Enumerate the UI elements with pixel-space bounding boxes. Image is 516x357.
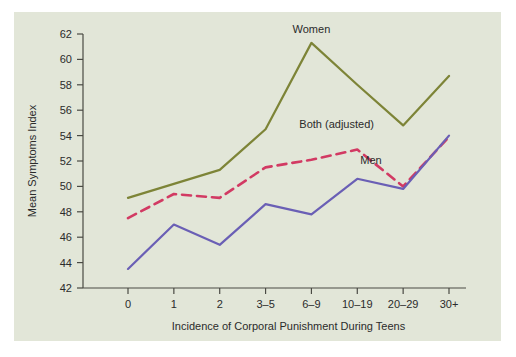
series-line-men [128, 136, 449, 269]
y-tick-label: 50 [60, 180, 72, 192]
series-line-both-adjusted [128, 137, 449, 218]
series-label-both-adjusted: Both (adjusted) [299, 118, 374, 130]
y-tick-label: 62 [60, 28, 72, 40]
series-line-women [128, 43, 449, 198]
y-tick-label: 56 [60, 104, 72, 116]
x-tick-label: 6–9 [302, 298, 320, 310]
series-label-women: Women [293, 23, 331, 35]
axis-tick-labels: 42444648505254565860620123–56–910–1920–2… [60, 28, 459, 310]
y-tick-label: 48 [60, 206, 72, 218]
y-tick-label: 52 [60, 155, 72, 167]
x-tick-label: 3–5 [256, 298, 274, 310]
chart-figure: 42444648505254565860620123–56–910–1920–2… [0, 0, 516, 357]
y-tick-label: 42 [60, 282, 72, 294]
y-tick-label: 54 [60, 130, 72, 142]
axes [77, 34, 466, 294]
series-lines [128, 43, 449, 269]
x-tick-label: 2 [217, 298, 223, 310]
y-tick-label: 58 [60, 79, 72, 91]
y-tick-label: 60 [60, 53, 72, 65]
x-tick-label: 20–29 [388, 298, 419, 310]
x-tick-label: 1 [171, 298, 177, 310]
y-axis-title: Mean Symptoms Index [26, 104, 38, 217]
y-tick-label: 44 [60, 257, 72, 269]
line-chart: 42444648505254565860620123–56–910–1920–2… [0, 0, 516, 357]
series-label-men: Men [360, 154, 381, 166]
x-tick-label: 0 [125, 298, 131, 310]
x-tick-label: 30+ [440, 298, 459, 310]
y-tick-label: 46 [60, 231, 72, 243]
x-tick-label: 10–19 [342, 298, 373, 310]
x-axis-title: Incidence of Corporal Punishment During … [172, 320, 406, 332]
